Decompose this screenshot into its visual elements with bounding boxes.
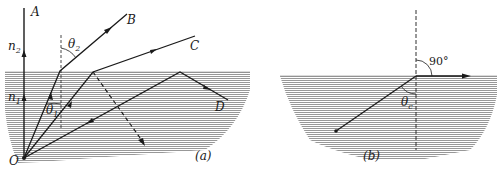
n2-symbol: n [8, 39, 16, 53]
refraction-diagram: A B C D O n2 n1 θ2 θ1 (a) 90° θc (b) [0, 0, 499, 173]
label-90-degrees: 90° [429, 56, 449, 67]
label-A: A [31, 6, 40, 18]
caption-a: (a) [195, 150, 212, 162]
label-n1: n1 [8, 91, 21, 106]
n1-symbol: n [8, 90, 16, 104]
arrow-OA-upper [22, 50, 27, 57]
label-C: C [190, 40, 199, 52]
arrow-OC-upper [150, 49, 157, 54]
label-O: O [9, 155, 19, 167]
water-region-b [280, 76, 497, 160]
label-theta2: θ2 [68, 38, 80, 53]
theta1-subscript: 1 [53, 110, 58, 119]
n2-subscript: 2 [16, 46, 21, 55]
label-theta1: θ1 [46, 104, 58, 119]
water-region-a [5, 72, 250, 163]
label-B: B [127, 14, 136, 26]
source-point-b [334, 129, 338, 133]
thetac-subscript: c [408, 102, 412, 111]
theta2-subscript: 2 [75, 44, 80, 53]
label-theta-c: θc [401, 96, 413, 111]
diagram-canvas [0, 0, 499, 173]
label-n2: n2 [8, 40, 21, 55]
label-D: D [215, 101, 225, 113]
n1-subscript: 1 [16, 97, 21, 106]
source-point-O [22, 156, 26, 160]
caption-b: (b) [363, 150, 380, 162]
